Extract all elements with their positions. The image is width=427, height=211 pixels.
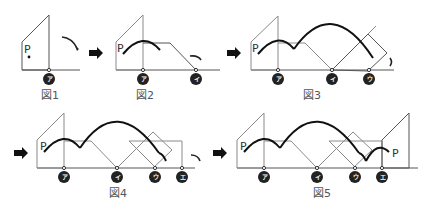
- marker-u: ウ: [149, 171, 161, 183]
- point-p-label: P: [252, 42, 259, 55]
- figure-5: P P ア イ ウ エ 図5: [237, 113, 418, 200]
- pivot-point: [47, 68, 50, 71]
- trapezoid-rolled: [143, 43, 196, 70]
- marker-a: ア: [137, 73, 149, 85]
- next-arrow-icon: [14, 147, 28, 159]
- marker-a: ア: [58, 171, 70, 183]
- pivot-point: [315, 166, 318, 169]
- next-arrow-icon: [89, 47, 103, 59]
- path-arc-2: [294, 24, 373, 58]
- caption-fig5: 図5: [313, 187, 331, 200]
- pivot-point: [380, 166, 383, 169]
- marker-i: イ: [111, 171, 123, 183]
- path-arc-2: [280, 122, 359, 153]
- svg-text:ウ: ウ: [367, 75, 373, 83]
- pivot-point: [115, 166, 118, 169]
- svg-text:ア: ア: [62, 173, 68, 181]
- marker-u: ウ: [363, 73, 375, 85]
- point-p: [28, 56, 31, 59]
- rotate-arrow-icon: [191, 155, 200, 161]
- figure-3: P ア イ ウ 図3: [251, 16, 394, 102]
- svg-text:ア: ア: [141, 75, 147, 83]
- pivot-point: [276, 68, 279, 71]
- marker-a: ア: [272, 73, 284, 85]
- path-arc-4: [366, 148, 389, 161]
- marker-e: エ: [376, 171, 388, 183]
- rotate-arrow-icon: [390, 58, 392, 66]
- svg-text:エ: エ: [380, 173, 386, 180]
- path-arc-3: [159, 153, 166, 161]
- point-p-end-label: P: [392, 147, 399, 160]
- marker-e: エ: [176, 171, 188, 183]
- marker-a: ア: [43, 73, 55, 85]
- svg-text:ア: ア: [262, 173, 268, 181]
- point-p-label: P: [117, 42, 124, 55]
- svg-text:イ: イ: [194, 75, 200, 83]
- svg-text:イ: イ: [115, 173, 121, 181]
- marker-i: イ: [311, 171, 323, 183]
- rotate-arrow-icon: [190, 56, 201, 60]
- svg-text:ア: ア: [276, 75, 282, 83]
- caption-fig1: 図1: [41, 89, 59, 102]
- marker-u: ウ: [349, 171, 361, 183]
- rotate-arrow-icon: [62, 37, 77, 48]
- figure-2: P ア イ 図2: [116, 15, 220, 102]
- point-p-label: P: [24, 43, 31, 56]
- next-arrow-icon: [227, 47, 241, 59]
- pivot-point: [262, 166, 265, 169]
- svg-text:イ: イ: [330, 75, 336, 83]
- pivot-point: [62, 166, 65, 169]
- trapezoid-rolled: [129, 141, 182, 168]
- pivot-point: [141, 68, 144, 71]
- trapezoid-trace-2: [329, 141, 382, 168]
- figure-1: P ア 図1: [22, 15, 80, 102]
- svg-text:ア: ア: [47, 75, 53, 83]
- pivot-point: [153, 166, 156, 169]
- marker-a: ア: [258, 171, 270, 183]
- svg-text:エ: エ: [180, 173, 186, 180]
- path-arc-3: [359, 153, 366, 161]
- pivot-point: [194, 68, 197, 71]
- pivot-point: [367, 68, 370, 71]
- caption-fig3: 図3: [303, 89, 321, 102]
- next-arrow-icon: [213, 147, 227, 159]
- path-arc-2: [80, 122, 159, 153]
- figure-4: P ア イ ウ エ 図4: [37, 113, 200, 200]
- point-p-label: P: [240, 140, 247, 153]
- pivot-point: [180, 166, 183, 169]
- svg-text:イ: イ: [315, 173, 321, 181]
- pivot-point: [353, 166, 356, 169]
- pivot-point: [330, 68, 333, 71]
- caption-fig4: 図4: [109, 187, 127, 200]
- svg-text:ウ: ウ: [353, 173, 359, 181]
- point-p-label: P: [40, 140, 47, 153]
- marker-i: イ: [190, 73, 202, 85]
- marker-i: イ: [326, 73, 338, 85]
- caption-fig2: 図2: [136, 89, 154, 102]
- svg-text:ウ: ウ: [153, 173, 159, 181]
- rolling-figure-diagram: P ア 図1 P ア イ 図2 P ア イ: [0, 0, 427, 211]
